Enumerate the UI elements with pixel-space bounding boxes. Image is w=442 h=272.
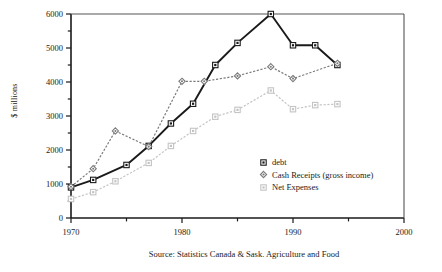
- y-axis-title: $ millions: [10, 66, 19, 136]
- marker-dot: [203, 80, 205, 82]
- marker-dot: [292, 108, 294, 110]
- marker-dot: [262, 174, 264, 176]
- data-point: [91, 189, 96, 194]
- y-tick-label: 3000: [46, 111, 63, 121]
- data-point: [179, 78, 185, 84]
- legend-marker-glyph: [261, 160, 266, 165]
- marker-dot: [214, 64, 216, 66]
- data-point: [168, 121, 173, 126]
- marker-dot: [292, 78, 294, 80]
- data-point: [113, 179, 118, 184]
- marker-dot: [148, 146, 150, 148]
- data-point: [313, 43, 318, 48]
- data-point: [112, 128, 118, 134]
- marker-dot: [192, 103, 194, 105]
- data-point: [235, 107, 240, 112]
- data-point: [335, 101, 340, 106]
- data-point: [213, 114, 218, 119]
- legend-diamond-icon: [258, 169, 269, 180]
- marker-dot: [181, 80, 183, 82]
- data-point: [268, 88, 273, 93]
- data-point: [290, 43, 295, 48]
- x-tick-label: 1990: [285, 227, 302, 237]
- marker-dot: [148, 162, 150, 164]
- marker-dot: [314, 104, 316, 106]
- marker-dot: [236, 109, 238, 111]
- y-tick-label: 2000: [46, 145, 63, 155]
- y-tick-label: 4000: [46, 77, 63, 87]
- marker-dot: [236, 75, 238, 77]
- y-tick-label: 0: [59, 213, 63, 223]
- marker-dot: [262, 186, 264, 188]
- data-point: [146, 160, 151, 165]
- legend-square-icon: [258, 182, 269, 193]
- chart-legend: debtCash Receipts (gross income)Net Expe…: [258, 156, 373, 194]
- marker-dot: [336, 103, 338, 105]
- tick-label-layer: 0100020003000400050006000197019801990200…: [46, 9, 413, 237]
- y-tick-label: 1000: [46, 179, 63, 189]
- data-point: [68, 196, 73, 201]
- data-point: [190, 128, 195, 133]
- x-tick-label: 1980: [174, 227, 191, 237]
- chart-container: 0100020003000400050006000197019801990200…: [0, 0, 442, 272]
- y-tick-label: 5000: [46, 43, 63, 53]
- data-point: [190, 101, 195, 106]
- legend-item-2[interactable]: Cash Receipts (gross income): [258, 169, 373, 182]
- data-point: [268, 64, 274, 70]
- marker-dot: [314, 44, 316, 46]
- data-point: [268, 11, 273, 16]
- legend-square-icon: [258, 157, 269, 168]
- y-tick-label: 6000: [46, 9, 63, 19]
- marker-dot: [262, 161, 264, 163]
- data-point: [313, 102, 318, 107]
- x-tick-label: 2000: [396, 227, 413, 237]
- marker-dot: [92, 191, 94, 193]
- legend-item-label: debt: [272, 156, 287, 169]
- line-chart-canvas: 0100020003000400050006000197019801990200…: [0, 0, 442, 272]
- marker-dot: [125, 164, 127, 166]
- data-point: [213, 62, 218, 67]
- marker-dot: [70, 198, 72, 200]
- legend-marker-glyph: [260, 172, 266, 178]
- marker-dot: [114, 130, 116, 132]
- marker-dot: [70, 186, 72, 188]
- marker-dot: [170, 122, 172, 124]
- marker-dot: [270, 89, 272, 91]
- marker-dot: [114, 180, 116, 182]
- data-point: [90, 166, 96, 172]
- marker-dot: [170, 145, 172, 147]
- legend-marker-glyph: [261, 185, 266, 190]
- legend-item-3[interactable]: Net Expenses: [258, 181, 373, 194]
- marker-dot: [292, 44, 294, 46]
- marker-dot: [92, 179, 94, 181]
- data-point: [91, 177, 96, 182]
- data-point: [124, 162, 129, 167]
- marker-dot: [192, 130, 194, 132]
- data-point: [235, 40, 240, 45]
- marker-dot: [336, 62, 338, 64]
- marker-dot: [92, 168, 94, 170]
- data-point: [290, 76, 296, 82]
- data-point: [290, 107, 295, 112]
- marker-dot: [236, 42, 238, 44]
- legend-item-label: Net Expenses: [272, 181, 319, 194]
- marker-dot: [270, 13, 272, 15]
- legend-item-label: Cash Receipts (gross income): [272, 169, 373, 182]
- legend-item-1[interactable]: debt: [258, 156, 373, 169]
- x-tick-label: 1970: [63, 227, 80, 237]
- marker-dot: [270, 66, 272, 68]
- data-point: [168, 143, 173, 148]
- data-point: [234, 73, 240, 79]
- source-note: Source: Statistics Canada & Sask. Agricu…: [0, 249, 442, 259]
- marker-dot: [214, 116, 216, 118]
